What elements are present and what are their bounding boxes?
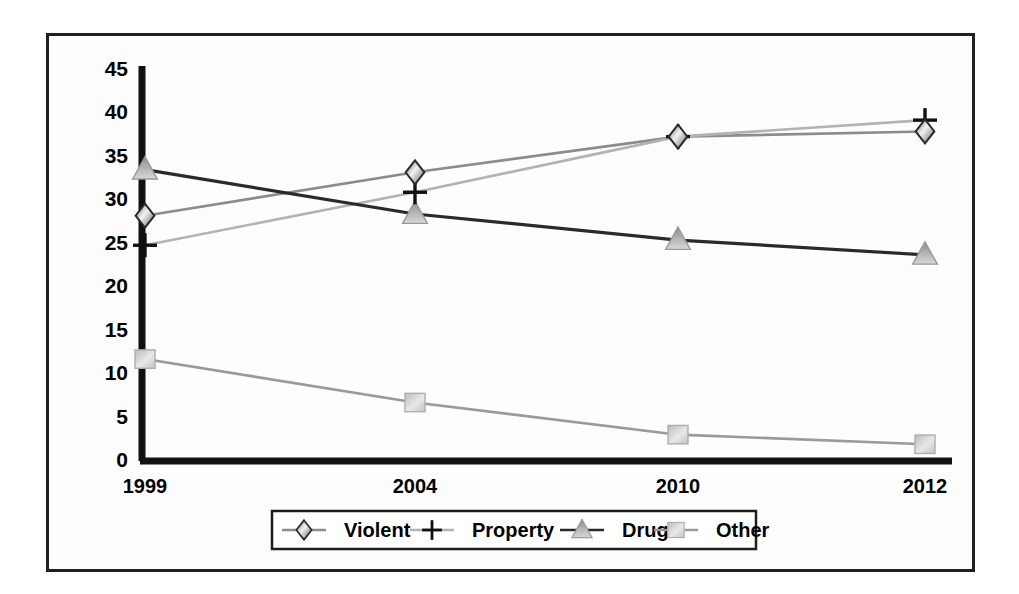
- y-axis-tick-labels: 454035302520151050: [105, 57, 129, 471]
- series-line-other: [145, 359, 925, 444]
- marker-other-2012: [915, 435, 935, 453]
- line-chart-figure: 454035302520151050 1999200420102012 Viol…: [0, 0, 1019, 594]
- legend-marker-square-icon: [668, 522, 684, 537]
- y-axis-tick-label: 10: [105, 361, 128, 384]
- legend-label: Property: [472, 519, 555, 541]
- series-lines: [145, 120, 925, 444]
- legend-label: Violent: [344, 519, 411, 541]
- marker-drug-1999: [133, 157, 158, 179]
- y-axis-tick-label: 45: [105, 57, 129, 80]
- y-axis-tick-label: 25: [105, 231, 129, 254]
- x-axis-category-label: 2012: [903, 475, 948, 497]
- marker-other-1999: [135, 350, 155, 368]
- marker-property-1999: [133, 233, 157, 257]
- chart-legend: ViolentPropertyDrugOther: [272, 511, 770, 549]
- series-line-drug: [145, 170, 925, 255]
- marker-violent-2010: [669, 125, 688, 149]
- y-axis-tick-label: 30: [105, 187, 128, 210]
- series-markers: [133, 108, 938, 453]
- x-axis-category-label: 1999: [123, 475, 168, 497]
- x-axis-category-labels: 1999200420102012: [123, 475, 948, 497]
- series-line-violent: [145, 131, 925, 215]
- legend-item-property: Property: [410, 519, 555, 541]
- marker-violent-2004: [406, 160, 425, 184]
- y-axis-tick-label: 35: [105, 144, 129, 167]
- marker-violent-1999: [136, 204, 155, 228]
- x-axis-category-label: 2010: [656, 475, 701, 497]
- y-axis-tick-label: 0: [116, 448, 128, 471]
- y-axis-tick-label: 15: [105, 318, 129, 341]
- y-axis-tick-label: 40: [105, 100, 128, 123]
- legend-label: Other: [716, 519, 770, 541]
- marker-other-2010: [668, 425, 688, 443]
- y-axis-tick-label: 20: [105, 274, 128, 297]
- x-axis-category-label: 2004: [393, 475, 438, 497]
- chart-plot-area: 454035302520151050 1999200420102012 Viol…: [0, 0, 1019, 594]
- legend-item-violent: Violent: [282, 519, 411, 541]
- marker-violent-2012: [916, 119, 935, 143]
- y-axis-tick-label: 5: [116, 405, 128, 428]
- marker-other-2004: [405, 393, 425, 411]
